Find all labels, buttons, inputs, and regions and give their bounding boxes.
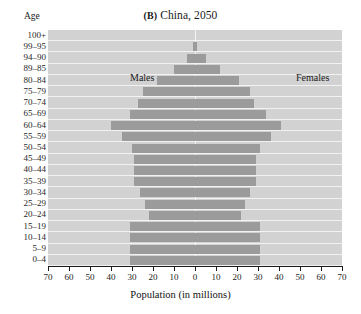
y-axis-tick-label: 70–74 (2, 97, 46, 107)
x-axis-tick-label: 60 (59, 272, 79, 282)
bar-male (149, 211, 195, 220)
x-axis-tick (237, 266, 238, 271)
y-axis-tick-label: 55–59 (2, 131, 46, 141)
bar-female (195, 188, 250, 197)
x-axis-tick (111, 266, 112, 271)
x-axis-tick-label: 60 (311, 272, 331, 282)
x-axis-tick-label: 10 (206, 272, 226, 282)
x-axis-tick-label: 30 (122, 272, 142, 282)
y-axis-labels: 100+99–9594–9089–8580–8475–7970–7465–696… (0, 30, 46, 266)
x-axis-tick (342, 266, 343, 271)
y-axis-tick-label: 60–64 (2, 120, 46, 130)
bar-male (134, 155, 195, 164)
bar-male (130, 233, 195, 242)
plot-area: Males Females (48, 30, 342, 266)
bar-male (187, 54, 195, 63)
bar-female (195, 166, 256, 175)
y-axis-tick-label: 40–44 (2, 164, 46, 174)
bar-female (195, 256, 260, 265)
x-axis-tick (153, 266, 154, 271)
y-axis-tick-label: 50–54 (2, 142, 46, 152)
x-axis-tick-label: 70 (38, 272, 58, 282)
x-axis-tick (132, 266, 133, 271)
y-axis-tick-label: 65–69 (2, 108, 46, 118)
bar-male (130, 245, 195, 254)
x-axis-tick (279, 266, 280, 271)
bar-female (195, 42, 197, 51)
bar-female (195, 222, 260, 231)
panel-letter: (B) (144, 10, 158, 21)
x-axis-tick (258, 266, 259, 271)
x-axis-tick (300, 266, 301, 271)
y-axis-tick-label: 89–85 (2, 63, 46, 73)
bar-female (195, 54, 206, 63)
x-axis-tick-label: 20 (143, 272, 163, 282)
y-axis-tick-label: 99–95 (2, 41, 46, 51)
y-axis-tick-label: 0–4 (2, 254, 46, 264)
bar-male (122, 132, 196, 141)
bar-male (174, 65, 195, 74)
x-axis-tick-label: 0 (185, 272, 205, 282)
bar-female (195, 200, 245, 209)
y-axis-tick-label: 80–84 (2, 75, 46, 85)
x-axis-tick-label: 50 (80, 272, 100, 282)
population-pyramid-chart: Age (B) China, 2050 100+99–9594–9089–858… (0, 0, 361, 314)
bar-female (195, 245, 260, 254)
x-axis-tick-label: 30 (248, 272, 268, 282)
x-axis-tick (90, 266, 91, 271)
x-axis-tick-label: 40 (269, 272, 289, 282)
bar-female (195, 233, 260, 242)
y-axis-tick-label: 35–39 (2, 176, 46, 186)
bar-male (111, 121, 195, 130)
chart-title: (B) China, 2050 (0, 9, 361, 21)
x-axis-tick (321, 266, 322, 271)
x-axis-tick (216, 266, 217, 271)
bar-female (195, 87, 250, 96)
bar-female (195, 99, 254, 108)
bar-male (130, 222, 195, 231)
chart-title-text: China, 2050 (160, 9, 217, 21)
y-axis-tick-label: 15–19 (2, 221, 46, 231)
bar-male (157, 76, 195, 85)
bar-female (195, 65, 220, 74)
x-axis-title: Population (in millions) (0, 289, 361, 300)
x-axis-tick-label: 20 (227, 272, 247, 282)
x-axis-tick (48, 266, 49, 271)
y-axis-tick-label: 30–34 (2, 187, 46, 197)
bar-female (195, 211, 241, 220)
series-label-females: Females (296, 72, 329, 83)
series-label-males: Males (130, 72, 154, 83)
x-axis-tick-label: 50 (290, 272, 310, 282)
x-axis-tick-label: 10 (164, 272, 184, 282)
bar-female (195, 155, 256, 164)
y-axis-tick-label: 20–24 (2, 209, 46, 219)
y-axis-tick-label: 25–29 (2, 198, 46, 208)
y-axis-tick-label: 100+ (2, 30, 46, 40)
x-axis-tick-label: 70 (332, 272, 352, 282)
bar-male (130, 110, 195, 119)
bar-male (145, 200, 195, 209)
bar-female (195, 177, 256, 186)
y-axis-tick-label: 75–79 (2, 86, 46, 96)
bar-female (195, 132, 271, 141)
bar-male (134, 177, 195, 186)
x-axis-tick (174, 266, 175, 271)
bar-male (138, 99, 195, 108)
y-axis-tick-label: 94–90 (2, 52, 46, 62)
y-axis-tick-label: 10–14 (2, 232, 46, 242)
x-axis-tick-label: 40 (101, 272, 121, 282)
bar-male (130, 256, 195, 265)
bar-female (195, 110, 266, 119)
y-axis-tick-label: 45–49 (2, 153, 46, 163)
y-axis-tick-label: 5–9 (2, 243, 46, 253)
bar-male (132, 144, 195, 153)
bar-female (195, 144, 260, 153)
bar-female (195, 121, 281, 130)
bar-female (195, 76, 239, 85)
bar-male (140, 188, 195, 197)
x-axis-tick (195, 266, 196, 271)
x-axis-tick (69, 266, 70, 271)
bar-male (143, 87, 196, 96)
bar-male (134, 166, 195, 175)
